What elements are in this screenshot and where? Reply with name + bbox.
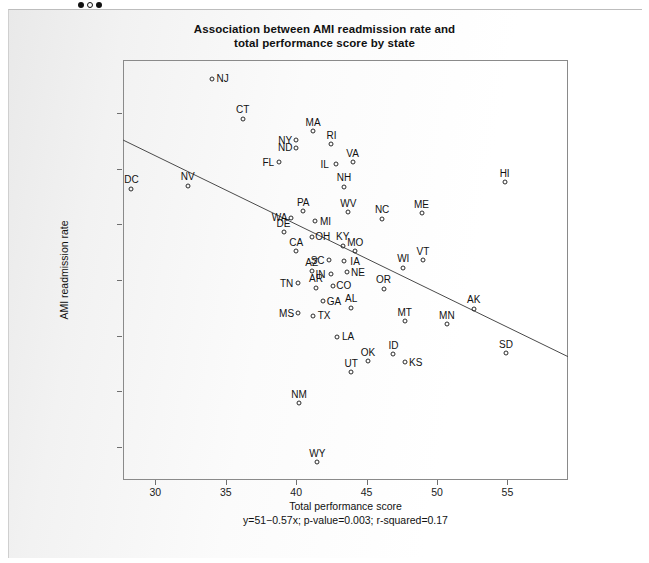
chart-title-line2: total performance score by state (0, 36, 649, 50)
data-point-label-ak: AK (467, 294, 480, 305)
data-point-label-ma: MA (306, 116, 321, 127)
data-point-vt[interactable] (420, 258, 425, 263)
data-point-label-il: IL (320, 158, 328, 169)
data-point-wv[interactable] (346, 210, 351, 215)
data-point-label-mt: MT (397, 306, 411, 317)
data-point-label-mo: MO (347, 236, 363, 247)
data-point-label-wi: WI (397, 253, 409, 264)
x-axis-tick (367, 480, 368, 485)
data-point-ok[interactable] (366, 359, 371, 364)
x-axis-tick (155, 480, 156, 485)
data-point-label-ks: KS (409, 356, 422, 367)
data-point-label-mi: MI (320, 215, 331, 226)
data-point-wy[interactable] (315, 460, 320, 465)
data-point-ut[interactable] (349, 370, 354, 375)
data-point-nv[interactable] (185, 183, 190, 188)
data-point-label-ia: IA (350, 255, 359, 266)
data-point-mn[interactable] (444, 322, 449, 327)
y-axis-label: AMI readmission rate (58, 220, 70, 319)
data-point-wi[interactable] (401, 265, 406, 270)
chart-title-line1: Association between AMI readmission rate… (194, 23, 456, 35)
chart-title: Association between AMI readmission rate… (0, 22, 649, 50)
data-point-label-ga: GA (327, 295, 341, 306)
data-point-label-al: AL (345, 293, 357, 304)
data-point-label-de: DE (277, 217, 291, 228)
data-point-mo[interactable] (353, 249, 358, 254)
data-point-nh[interactable] (342, 184, 347, 189)
data-point-label-co: CO (336, 280, 351, 291)
data-point-label-vt: VT (417, 245, 430, 256)
data-point-fl[interactable] (277, 160, 282, 165)
x-axis-tick-label: 45 (361, 486, 373, 498)
x-axis-label: Total performance score (123, 500, 568, 512)
y-axis-tick (117, 336, 122, 337)
data-point-mt[interactable] (402, 319, 407, 324)
data-point-ga[interactable] (320, 299, 325, 304)
x-axis-tick (437, 480, 438, 485)
data-point-al[interactable] (349, 305, 354, 310)
data-point-ia[interactable] (342, 259, 347, 264)
data-point-label-hi: HI (500, 167, 510, 178)
nav-dots[interactable] (78, 2, 102, 8)
data-point-label-ms: MS (279, 307, 294, 318)
data-point-dc[interactable] (129, 186, 134, 191)
data-point-me[interactable] (419, 211, 424, 216)
data-point-label-wv: WV (340, 197, 356, 208)
data-point-il[interactable] (333, 162, 338, 167)
data-point-nj[interactable] (209, 76, 214, 81)
y-axis-tick (117, 280, 122, 281)
page-root: Association between AMI readmission rate… (0, 0, 649, 563)
data-point-label-me: ME (414, 198, 429, 209)
data-point-ny[interactable] (294, 138, 299, 143)
data-point-ks[interactable] (402, 360, 407, 365)
data-point-mi[interactable] (312, 219, 317, 224)
nav-dot-3-icon[interactable] (96, 2, 102, 8)
data-point-label-dc: DC (124, 174, 138, 185)
y-axis-tick (117, 224, 122, 225)
data-point-pa[interactable] (301, 209, 306, 214)
x-axis-tick (226, 480, 227, 485)
y-axis-tick (117, 447, 122, 448)
plot-area: NJCTMANYRINDFLILVAHIDCNVNHMENCPAWVWAMIDE… (123, 60, 568, 480)
data-point-tx[interactable] (311, 313, 316, 318)
data-point-or[interactable] (381, 286, 386, 291)
data-point-hi[interactable] (502, 180, 507, 185)
data-point-oh[interactable] (309, 234, 314, 239)
x-axis-tick-label: 55 (502, 486, 514, 498)
data-point-ri[interactable] (329, 142, 334, 147)
data-point-co[interactable] (330, 283, 335, 288)
data-point-ca[interactable] (294, 249, 299, 254)
data-point-ak[interactable] (471, 306, 476, 311)
data-point-ky[interactable] (340, 243, 345, 248)
data-point-label-or: OR (376, 274, 391, 285)
data-point-tn[interactable] (295, 281, 300, 286)
data-point-label-la: LA (342, 331, 354, 342)
data-point-ms[interactable] (295, 311, 300, 316)
data-point-ar[interactable] (313, 285, 318, 290)
data-point-nd[interactable] (294, 145, 299, 150)
data-point-in[interactable] (329, 272, 334, 277)
data-point-va[interactable] (350, 160, 355, 165)
data-point-label-nj: NJ (217, 73, 229, 84)
data-point-ma[interactable] (311, 129, 316, 134)
x-axis-tick (507, 480, 508, 485)
data-point-label-mn: MN (439, 309, 455, 320)
y-axis-tick (117, 113, 122, 114)
data-point-ct[interactable] (240, 116, 245, 121)
nav-dot-2-icon[interactable] (87, 2, 93, 8)
data-point-label-tx: TX (318, 310, 331, 321)
data-point-sc[interactable] (326, 258, 331, 263)
x-axis-tick-label: 50 (431, 486, 443, 498)
data-point-ne[interactable] (344, 270, 349, 275)
data-point-label-id: ID (388, 339, 398, 350)
data-point-nm[interactable] (297, 401, 302, 406)
data-point-id[interactable] (391, 352, 396, 357)
data-point-de[interactable] (281, 230, 286, 235)
data-point-nc[interactable] (380, 216, 385, 221)
data-point-label-tn: TN (280, 277, 293, 288)
data-point-label-nv: NV (181, 171, 195, 182)
nav-dot-1-icon[interactable] (78, 2, 84, 8)
regression-equation: y=51−0.57x; p-value=0.003; r-squared=0.1… (123, 514, 568, 526)
data-point-sd[interactable] (504, 351, 509, 356)
data-point-la[interactable] (335, 334, 340, 339)
